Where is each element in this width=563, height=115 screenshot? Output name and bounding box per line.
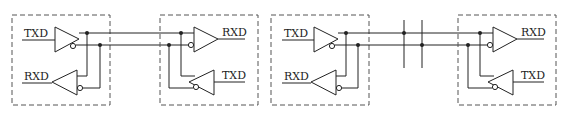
inversion-bubble-icon	[70, 43, 75, 48]
node-a-left: TXD RXD	[12, 15, 110, 105]
junction-dot	[478, 31, 482, 35]
junction-dot	[420, 43, 424, 47]
junction-dot	[179, 31, 183, 35]
txd-label: TXD	[521, 69, 545, 82]
inversion-bubble-icon	[492, 84, 497, 89]
inversion-bubble-icon	[77, 85, 82, 90]
node-a-right: TXD RXD	[271, 15, 369, 105]
inversion-bubble-icon	[336, 85, 341, 90]
driver-icon	[488, 70, 513, 95]
node-b-right: RXD TXD	[458, 15, 556, 105]
junction-dot	[466, 43, 470, 47]
driver-icon	[55, 27, 79, 52]
inversion-bubble-icon	[329, 43, 334, 48]
bus-diagram: TXD RXD RXD TXD TXD RXD	[0, 0, 563, 115]
rxd-label: RXD	[222, 26, 247, 39]
receiver-icon	[52, 70, 77, 95]
rxd-label: RXD	[284, 70, 309, 83]
inversion-bubble-icon	[193, 84, 198, 89]
receiver-icon	[493, 27, 517, 52]
inversion-bubble-icon	[188, 42, 193, 47]
rxd-label: RXD	[521, 26, 546, 39]
inversion-bubble-icon	[487, 42, 492, 47]
junction-dot	[402, 31, 406, 35]
driver-icon	[314, 27, 338, 52]
txd-label: TXD	[24, 27, 48, 40]
receiver-icon	[311, 70, 336, 95]
txd-label: TXD	[222, 69, 246, 82]
driver-icon	[189, 70, 214, 95]
junction-dot	[167, 43, 171, 47]
txd-label: TXD	[284, 27, 308, 40]
node-b-left: RXD TXD	[160, 15, 258, 105]
receiver-icon	[194, 27, 218, 52]
rxd-label: RXD	[24, 70, 49, 83]
